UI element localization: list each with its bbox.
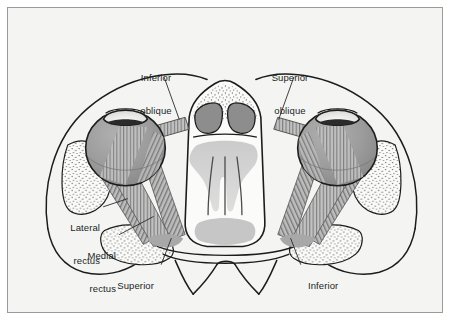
label-inferior-oblique: Inferior oblique [126, 50, 186, 138]
label-superior-rectus-line1: Superior [90, 280, 154, 291]
label-inferior-rectus: Inferior rectus [308, 258, 372, 313]
label-superior-oblique-line2: oblique [258, 105, 322, 116]
label-superior-rectus: Superior rectus [90, 258, 154, 313]
label-inferior-rectus-line1: Inferior [308, 280, 372, 291]
figure-root: Inferior oblique Superior oblique Latera… [0, 0, 452, 335]
sphenoid-body-shade [195, 218, 256, 245]
ethmoid-sphenoid-complex [185, 81, 265, 247]
label-inferior-oblique-line1: Inferior [126, 72, 186, 83]
label-inferior-oblique-line2: oblique [126, 105, 186, 116]
figure-frame: Inferior oblique Superior oblique Latera… [7, 7, 443, 313]
label-superior-oblique-line1: Superior [258, 72, 322, 83]
label-superior-oblique: Superior oblique [258, 50, 322, 138]
